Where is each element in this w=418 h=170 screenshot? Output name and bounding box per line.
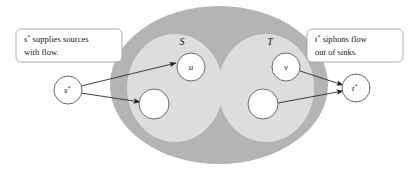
diagram-canvas: S T s* u v t* s* supplies sources with f…: [0, 0, 418, 170]
flow-network-diagram: S T s* u v t* s* supplies sources with f…: [0, 0, 418, 170]
sink-callout-line1: t* siphons flow: [315, 33, 368, 45]
source-callout-line2: with flow.: [24, 47, 59, 57]
source-node-u-label: u: [189, 62, 194, 72]
source-callout-line1: s* supplies sources: [24, 33, 89, 45]
source-node-unlabeled: [139, 89, 169, 119]
sources-region-label: S: [180, 36, 185, 47]
sink-node-unlabeled: [248, 89, 278, 119]
sink-callout-line2: out of sinks.: [315, 47, 357, 57]
sink-node-v-label: v: [284, 62, 288, 72]
sinks-region-shape: [218, 34, 314, 142]
sources-region-shape: [127, 34, 223, 142]
